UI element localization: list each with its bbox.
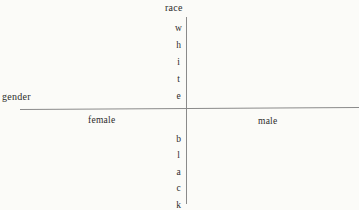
black-letter: l [177, 148, 180, 165]
gender-axis-line [20, 107, 359, 110]
black-letter: k [176, 197, 181, 210]
race-axis-line [186, 17, 187, 204]
black-letter: b [176, 131, 181, 148]
race-axis-label: race [165, 3, 183, 13]
white-letter: w [175, 20, 182, 37]
white-letter: t [177, 71, 180, 88]
white-stacked-label: w h i t e [173, 20, 184, 105]
white-letter: i [177, 54, 180, 71]
black-stacked-label: b l a c k [173, 131, 184, 210]
white-letter: e [176, 88, 180, 105]
gender-axis-label: gender [2, 92, 31, 102]
white-letter: h [176, 37, 181, 54]
black-letter: c [176, 181, 180, 198]
axes-diagram: gender race female male w h i t e b l a … [0, 0, 359, 210]
female-pole-label: female [88, 116, 115, 126]
male-pole-label: male [258, 117, 277, 127]
black-letter: a [176, 164, 180, 181]
